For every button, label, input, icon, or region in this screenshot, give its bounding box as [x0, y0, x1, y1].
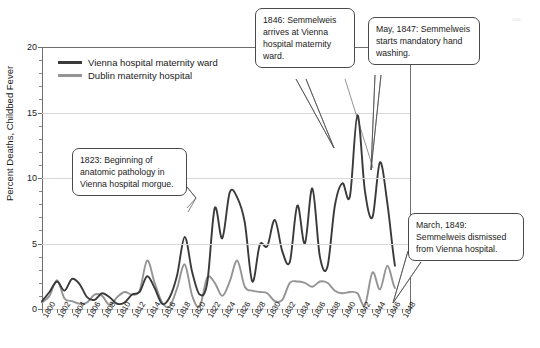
legend-label-dublin: Dublin maternity hospital	[88, 70, 192, 81]
y-tick-minor	[39, 257, 42, 258]
y-tick-minor	[39, 217, 42, 218]
y-tick-minor	[39, 230, 42, 231]
legend-item-dublin: Dublin maternity hospital	[58, 69, 248, 82]
y-tick-minor	[39, 283, 42, 284]
image-artifact	[512, 18, 521, 21]
y-tick-label-15: 15	[11, 108, 37, 118]
chart-figure: Percent Deaths, Childbed Fever 051015201…	[0, 0, 540, 348]
y-tick-minor	[39, 99, 42, 100]
gridline-y-5	[42, 244, 410, 245]
y-tick-label-20: 20	[11, 42, 37, 52]
legend-label-vienna: Vienna hospital maternity ward	[88, 57, 218, 68]
legend-swatch-vienna	[58, 61, 82, 64]
legend-swatch-dublin	[58, 74, 82, 77]
y-tick-minor	[39, 73, 42, 74]
y-tick-minor	[39, 165, 42, 166]
gridline-y-15	[42, 113, 410, 114]
y-tick-minor	[39, 204, 42, 205]
legend-item-vienna: Vienna hospital maternity ward	[58, 56, 248, 69]
y-tick-15	[38, 113, 42, 114]
y-tick-5	[38, 244, 42, 245]
y-tick-minor	[39, 126, 42, 127]
y-tick-minor	[39, 139, 42, 140]
annotation-callout-1849: March, 1849: Semmelweis dismissed from V…	[408, 213, 524, 261]
y-tick-20	[38, 47, 42, 48]
annotation-callout-1823: 1823: Beginning of anatomic pathology in…	[72, 148, 187, 196]
y-tick-minor	[39, 191, 42, 192]
annotation-callout-1847: May, 1847: Semmelweis starts mandatory h…	[368, 17, 480, 65]
legend: Vienna hospital maternity ward Dublin ma…	[58, 56, 248, 82]
y-tick-minor	[39, 296, 42, 297]
y-tick-minor	[39, 86, 42, 87]
series-line-vienna	[42, 115, 395, 304]
y-tick-10	[38, 178, 42, 179]
y-tick-label-5: 5	[11, 239, 37, 249]
annotation-callout-1846: 1846: Semmelweis arrives at Vienna hospi…	[255, 8, 355, 68]
y-tick-label-10: 10	[11, 173, 37, 183]
y-tick-minor	[39, 60, 42, 61]
y-tick-minor	[39, 270, 42, 271]
y-tick-label-0: 0	[11, 304, 37, 314]
plot-right-edge	[410, 47, 411, 309]
y-tick-minor	[39, 152, 42, 153]
